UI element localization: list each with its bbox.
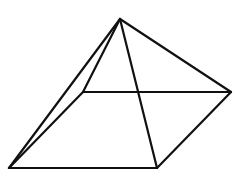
edge-apex-back_left <box>83 19 120 92</box>
edge-apex-right <box>120 19 231 92</box>
edge-back_left-front_left <box>9 92 83 168</box>
edge-front_right-right <box>157 92 231 168</box>
edge-apex-front_right <box>120 19 157 168</box>
edge-apex-front_left <box>9 19 120 168</box>
pyramid-diagram <box>0 0 237 169</box>
